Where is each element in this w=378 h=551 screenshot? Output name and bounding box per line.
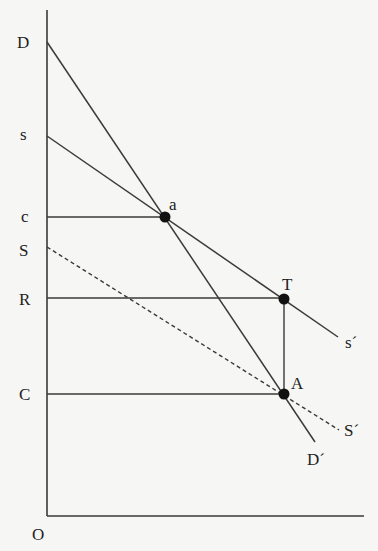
label-O: O [32,525,44,544]
label-R: R [19,290,31,309]
label-S-prime: S´ [344,421,359,440]
private-supply-line [47,136,338,337]
label-D: D [17,33,29,52]
point-T [279,294,290,305]
label-s-prime: s´ [345,333,357,352]
diagram-canvas: D s c S R C O a T A s´ S´ D´ [0,0,378,551]
label-D-prime: D´ [307,450,325,469]
label-a: a [169,195,177,214]
label-C: C [19,385,30,404]
label-c: c [21,207,29,226]
label-s: s [20,125,27,144]
label-T: T [282,275,293,294]
label-A: A [291,374,304,393]
point-A [279,389,290,400]
label-S: S [19,241,28,260]
demand-line [47,42,315,442]
social-supply-line [47,247,339,430]
